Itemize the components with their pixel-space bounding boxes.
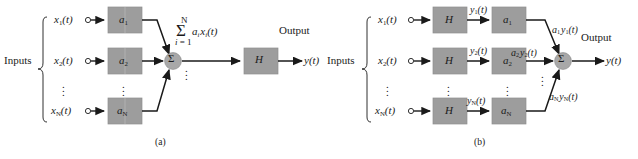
input-signal-b-2: x2(t) xyxy=(378,55,397,67)
weighted-signal-b-2: a2 y2(t) xyxy=(511,48,537,59)
weighted-signal-b-3: aN yN(t) xyxy=(549,92,578,103)
gain-ellipsis-b: ... xyxy=(506,82,509,94)
panel-a-graphics xyxy=(38,7,302,124)
input-ellipsis-b: ... xyxy=(386,82,389,94)
figure-root: Inputs x1(t) x2(t) xN(t) a1 a2 aN ... ..… xyxy=(0,0,638,159)
filter-ellipsis-b: ... xyxy=(447,82,450,94)
output-signal-a: y(t) xyxy=(304,55,319,66)
inputs-label-a: Inputs xyxy=(4,55,32,66)
input-signal-a-3: xN(t) xyxy=(51,105,71,117)
wire-a-sum-1 xyxy=(142,20,169,54)
summing-ellipsis-a: ... xyxy=(185,66,188,78)
input-terminal-a-2 xyxy=(85,58,90,63)
inputs-brace-a xyxy=(38,17,47,122)
input-terminal-b-1 xyxy=(408,17,413,22)
gain-label-a-3: aN xyxy=(117,105,127,117)
wire-a-sum-3 xyxy=(142,70,169,111)
gain-label-a-2: a2 xyxy=(119,55,128,67)
input-terminal-b-2 xyxy=(408,58,413,63)
input-signal-b-1: x1(t) xyxy=(378,14,397,26)
summing-ellipsis-b: ... xyxy=(541,72,544,84)
intermediate-signal-b-1: y1(t) xyxy=(470,5,487,16)
sum-body-a: ai xi(t) xyxy=(192,26,218,38)
output-label-b: Output xyxy=(581,32,612,43)
filter-label-b-2: H xyxy=(445,55,453,66)
input-signal-a-2: x2(t) xyxy=(54,55,73,67)
input-ellipsis-a: ... xyxy=(62,82,65,94)
filter-label-a: H xyxy=(255,54,263,65)
gain-label-a-1: a1 xyxy=(119,14,128,26)
filter-label-b-3: H xyxy=(445,105,453,116)
caption-b: (b) xyxy=(474,138,485,148)
inputs-label-b: Inputs xyxy=(327,55,355,66)
summing-node-symbol-a: Σ xyxy=(168,53,174,64)
intermediate-signal-b-3: yN(t) xyxy=(467,96,485,107)
filter-label-b-1: H xyxy=(445,14,453,25)
inputs-brace-b xyxy=(362,17,371,122)
input-terminal-a-3 xyxy=(85,108,90,113)
gain-label-b-1: a1 xyxy=(503,14,512,26)
output-signal-b: y(t) xyxy=(606,55,621,66)
intermediate-signal-b-2: y2(t) xyxy=(470,46,487,57)
input-signal-a-1: x1(t) xyxy=(54,14,73,26)
input-signal-b-3: xN(t) xyxy=(375,105,395,117)
caption-a: (a) xyxy=(155,138,166,148)
input-terminal-b-3 xyxy=(408,108,413,113)
sum-lower-limit-a: i = 1 xyxy=(175,38,192,47)
summing-node-symbol-b: Σ xyxy=(558,53,564,64)
weighted-signal-b-1: a1 y1(t) xyxy=(552,25,578,36)
input-terminal-a-1 xyxy=(85,17,90,22)
gain-label-b-3: aN xyxy=(501,105,511,117)
gain-ellipsis-a: ... xyxy=(122,82,125,94)
output-label-a: Output xyxy=(279,25,310,36)
